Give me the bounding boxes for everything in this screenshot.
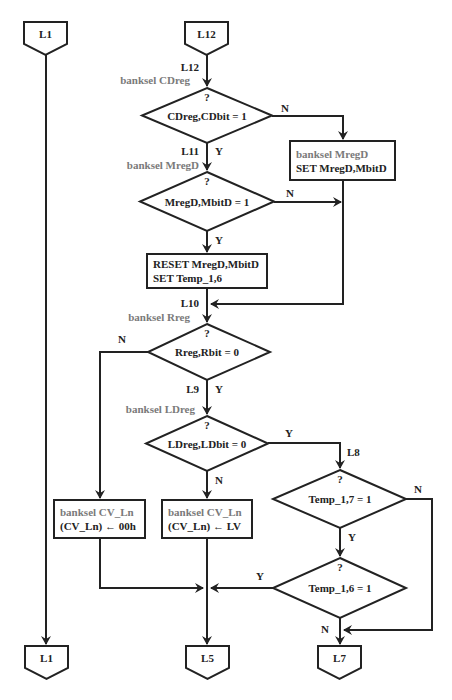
- process-line: banksel CV_Ln: [168, 506, 242, 518]
- decision-question-mark: ?: [204, 175, 210, 187]
- flow-label: L11: [181, 145, 199, 157]
- process-p2: RESET MregD,MbitDSET Temp_1,6: [147, 254, 267, 288]
- connector-arrow-e-p3-merge: [100, 538, 203, 588]
- process-line: (CV_Ln) ← LV: [168, 520, 241, 533]
- decision-condition: LDreg,LDbit = 0: [168, 438, 247, 450]
- flow-label: L12: [181, 61, 200, 73]
- decision-condition: Temp_1,6 = 1: [308, 582, 371, 594]
- flow-label: N: [286, 187, 294, 199]
- decision-condition: CDreg,CDbit = 1: [167, 110, 247, 122]
- offpage-connector-l1: L1: [25, 646, 68, 679]
- flow-label: banksel CDreg: [120, 74, 190, 86]
- flow-label: banksel MregD: [127, 159, 199, 171]
- process-line: banksel MregD: [296, 148, 368, 160]
- decision-question-mark: ?: [204, 91, 210, 103]
- connector-arrow-e-d3-N-p3: [100, 352, 148, 498]
- flowchart-canvas: L1L12L1L5L7?CDreg,CDbit = 1?MregD,MbitD …: [0, 0, 452, 700]
- flow-label: Y: [215, 383, 223, 395]
- flow-label: L10: [181, 297, 200, 309]
- offpage-connector-l1: L1: [24, 22, 67, 55]
- process-line: SET Temp_1,6: [153, 272, 222, 284]
- decision-d3: ?Rreg,Rbit = 0: [148, 324, 270, 380]
- flow-label: banksel Rreg: [128, 311, 190, 323]
- offpage-connector-l5: L5: [186, 646, 229, 679]
- decision-d5: ?Temp_1,7 = 1: [273, 470, 406, 528]
- flow-label: N: [281, 102, 289, 114]
- decision-condition: MregD,MbitD = 1: [165, 196, 250, 208]
- connector-arrow-e-d1-N-p1: [272, 116, 343, 139]
- decision-condition: Rreg,Rbit = 0: [175, 346, 239, 358]
- decision-d2: ?MregD,MbitD = 1: [140, 172, 274, 231]
- connector-label: L5: [201, 652, 214, 664]
- flow-label: N: [215, 474, 223, 486]
- decision-d1: ?CDreg,CDbit = 1: [142, 88, 272, 143]
- process-line: SET MregD,MbitD: [296, 162, 387, 174]
- decision-question-mark: ?: [337, 561, 343, 573]
- flow-label: N: [118, 333, 126, 345]
- connector-label: L12: [197, 28, 216, 40]
- offpage-connector-l7: L7: [318, 646, 361, 679]
- flow-label: N: [414, 483, 422, 495]
- process-line: RESET MregD,MbitD: [153, 258, 259, 270]
- connector-label: L7: [333, 652, 346, 664]
- flow-label: Y: [215, 145, 223, 157]
- process-line: banksel CV_Ln: [60, 506, 134, 518]
- decision-d6: ?Temp_1,6 = 1: [273, 558, 406, 618]
- flow-label: Y: [348, 531, 356, 543]
- process-line: (CV_Ln) ← 00h: [60, 520, 136, 533]
- connector-arrow-e-d4-Y-d5: [268, 443, 340, 468]
- connector-label: L1: [39, 28, 52, 40]
- flow-label: N: [321, 623, 329, 635]
- flowchart-diagram: L1L12L1L5L7?CDreg,CDbit = 1?MregD,MbitD …: [0, 0, 452, 700]
- decision-question-mark: ?: [337, 473, 343, 485]
- decision-d4: ?LDreg,LDbit = 0: [146, 416, 268, 471]
- process-p3: banksel CV_Ln(CV_Ln) ← 00h: [54, 500, 145, 538]
- flow-label: L9: [186, 383, 199, 395]
- decision-condition: Temp_1,7 = 1: [308, 493, 371, 505]
- decision-question-mark: ?: [204, 327, 210, 339]
- nodes-layer: L1L12L1L5L7?CDreg,CDbit = 1?MregD,MbitD …: [24, 22, 406, 679]
- process-p1: banksel MregDSET MregD,MbitD: [290, 141, 395, 180]
- connector-label: L1: [40, 652, 53, 664]
- flow-label: banksel LDreg: [126, 403, 196, 415]
- offpage-connector-l12: L12: [185, 22, 228, 55]
- flow-label: L8: [347, 446, 360, 458]
- flow-label: Y: [285, 427, 293, 439]
- decision-question-mark: ?: [204, 419, 210, 431]
- process-p4: banksel CV_Ln(CV_Ln) ← LV: [162, 500, 252, 538]
- flow-label: Y: [215, 234, 223, 246]
- flow-label: Y: [256, 570, 264, 582]
